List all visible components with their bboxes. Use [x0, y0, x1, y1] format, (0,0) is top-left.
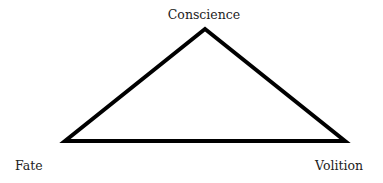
vertex-label-fate: Fate [15, 160, 43, 173]
vertex-label-volition: Volition [315, 160, 363, 173]
vertex-label-conscience: Conscience [168, 9, 240, 22]
triangle-shape [0, 0, 383, 183]
triangle-outline [65, 29, 345, 141]
triangle-diagram: Conscience Fate Volition [0, 0, 383, 183]
